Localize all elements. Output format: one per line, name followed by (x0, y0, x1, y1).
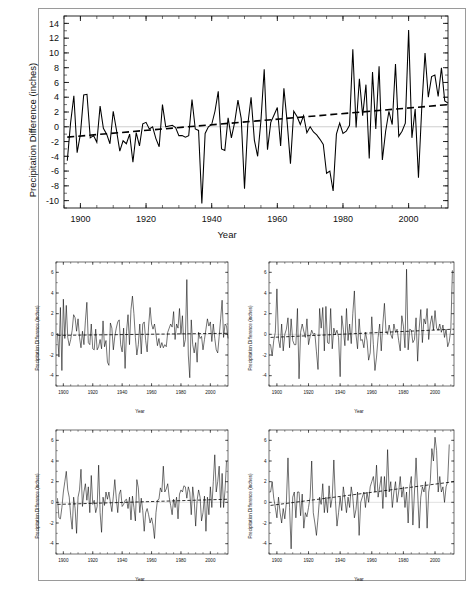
x-tick-label: 1940 (335, 558, 346, 563)
x-tick-label: 1940 (117, 558, 128, 563)
x-tick-label: 1920 (303, 558, 314, 563)
y-tick-label: 6 (264, 270, 267, 275)
y-tick-label: -4 (262, 541, 267, 546)
x-tick-label: 1920 (303, 390, 314, 395)
y-tick-label: -2 (262, 521, 267, 526)
subplot-top-right-panel: 190019201940196019802000-4-20246 Precipi… (243, 256, 461, 416)
y-tick-label: -10 (46, 196, 59, 206)
main-chart-panel: 190019201940196019802000-10-8-6-4-202468… (22, 10, 462, 242)
y-tick-label: 0 (264, 500, 267, 505)
x-tick-label: 1960 (146, 558, 157, 563)
y-tick-label: 4 (264, 459, 267, 464)
main-x-axis-label: Year (217, 229, 236, 240)
y-tick-label: -8 (51, 181, 59, 191)
y-tick-label: -2 (49, 353, 54, 358)
x-tick-label: 1960 (367, 558, 378, 563)
subplot-tl-y-axis-label: Precipitation Difference (inches) (35, 305, 40, 370)
y-tick-label: -2 (51, 137, 59, 147)
y-tick-label: 0 (51, 500, 54, 505)
x-tick-label: 1920 (136, 214, 156, 224)
x-tick-label: 1980 (398, 390, 409, 395)
subplot-top-right-svg: 190019201940196019802000-4-20246 Precipi… (243, 256, 461, 416)
subplot-bottom-left-svg: 190019201940196019802000-4-20246 Precipi… (30, 424, 235, 584)
subplot-bottom-right-panel: 190019201940196019802000-4-20246 Precipi… (243, 424, 461, 584)
y-tick-label: -2 (49, 521, 54, 526)
y-tick-label: -4 (49, 541, 54, 546)
subplot-top-left-panel: 190019201940196019802000-4-20246 Precipi… (30, 256, 235, 416)
x-tick-label: 1980 (176, 558, 187, 563)
x-tick-label: 1900 (58, 390, 69, 395)
y-tick-label: 0 (54, 122, 59, 132)
subplot-bottom-left-panel: 190019201940196019802000-4-20246 Precipi… (30, 424, 235, 584)
y-tick-label: 4 (264, 291, 267, 296)
subplot-tr-x-axis-label: Year (354, 409, 364, 414)
data-line (271, 269, 453, 379)
x-tick-label: 1940 (117, 390, 128, 395)
x-tick-label: 1980 (176, 390, 187, 395)
x-tick-label: 1900 (272, 558, 283, 563)
y-tick-label: 4 (54, 92, 59, 102)
x-tick-label: 1960 (267, 214, 287, 224)
subplot-br-x-axis-label: Year (354, 577, 364, 582)
y-tick-label: 10 (49, 48, 59, 58)
subplot-tr-y-axis-label: Precipitation Difference (inches) (248, 305, 253, 370)
x-tick-label: 1980 (333, 214, 353, 224)
y-tick-label: 2 (51, 479, 54, 484)
subplot-br-y-axis-label: Precipitation Difference (inches) (248, 473, 253, 538)
y-tick-label: -4 (262, 373, 267, 378)
y-tick-label: 0 (51, 332, 54, 337)
y-tick-label: 6 (264, 438, 267, 443)
x-tick-label: 1900 (272, 390, 283, 395)
subplot-top-left-svg: 190019201940196019802000-4-20246 Precipi… (30, 256, 235, 416)
subplot-bl-x-axis-label: Year (135, 577, 145, 582)
data-line (67, 30, 448, 204)
y-tick-label: 4 (51, 459, 54, 464)
precipitation-figure: 190019201940196019802000-10-8-6-4-202468… (0, 0, 475, 598)
y-tick-label: 8 (54, 63, 59, 73)
x-tick-label: 1960 (367, 390, 378, 395)
x-tick-label: 1900 (70, 214, 90, 224)
x-tick-label: 1900 (58, 558, 69, 563)
y-tick-label: 12 (49, 33, 59, 43)
subplot-bl-y-axis-label: Precipitation Difference (inches) (35, 473, 40, 538)
y-tick-label: 14 (49, 19, 59, 29)
x-tick-label: 2000 (205, 390, 216, 395)
subplot-bottom-right-svg: 190019201940196019802000-4-20246 Precipi… (243, 424, 461, 584)
data-line (57, 455, 226, 539)
subplot-tl-x-axis-label: Year (135, 409, 145, 414)
x-tick-label: 1940 (335, 390, 346, 395)
x-tick-label: 1960 (146, 390, 157, 395)
y-tick-label: 6 (51, 438, 54, 443)
x-tick-label: 2000 (430, 558, 441, 563)
y-tick-label: 2 (264, 311, 267, 316)
y-tick-label: -6 (51, 166, 59, 176)
y-tick-label: 6 (51, 270, 54, 275)
y-tick-label: -4 (49, 373, 54, 378)
x-tick-label: 2000 (205, 558, 216, 563)
y-tick-label: -4 (51, 152, 59, 162)
y-tick-label: 4 (51, 291, 54, 296)
x-tick-label: 2000 (430, 390, 441, 395)
x-tick-label: 1940 (202, 214, 222, 224)
x-tick-label: 1920 (88, 390, 99, 395)
y-tick-label: 2 (264, 479, 267, 484)
x-tick-label: 1980 (398, 558, 409, 563)
x-tick-label: 2000 (399, 214, 419, 224)
data-line (271, 437, 450, 549)
y-tick-label: 6 (54, 78, 59, 88)
y-tick-label: 2 (51, 311, 54, 316)
data-line (57, 280, 228, 378)
x-tick-label: 1920 (88, 558, 99, 563)
y-tick-label: 0 (264, 332, 267, 337)
y-tick-label: -2 (262, 353, 267, 358)
main-chart-svg: 190019201940196019802000-10-8-6-4-202468… (22, 10, 462, 242)
y-tick-label: 2 (54, 107, 59, 117)
main-y-axis-label: Precipitation Difference (inches) (27, 63, 38, 197)
